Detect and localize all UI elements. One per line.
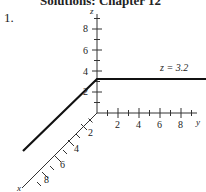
- y-axis-label: y: [195, 117, 200, 127]
- y-tick-8: 8: [178, 119, 183, 130]
- plane-trace-line: [23, 79, 206, 151]
- y-tick-6: 6: [157, 119, 162, 130]
- x-tick-2: 2: [88, 127, 93, 138]
- x-tick-8: 8: [44, 174, 49, 185]
- y-axis: [97, 108, 197, 118]
- x-tick-4: 4: [74, 143, 79, 154]
- y-tick-2: 2: [115, 119, 120, 130]
- x-axis-label: x: [16, 183, 21, 192]
- plane-equation-label: z = 3.2: [159, 62, 188, 73]
- z-tick-4: 4: [83, 66, 88, 77]
- z-tick-8: 8: [83, 23, 88, 34]
- y-tick-4: 4: [136, 119, 141, 130]
- x-tick-6: 6: [60, 159, 65, 170]
- z-axis: [92, 14, 102, 113]
- z-axis-label: z: [89, 6, 94, 16]
- 3d-plane-diagram: z 2 4 6 8 2 4 6 8 y 2 4 6 8 x z = 3: [0, 0, 206, 192]
- z-tick-6: 6: [83, 45, 88, 56]
- x-axis: [22, 113, 97, 188]
